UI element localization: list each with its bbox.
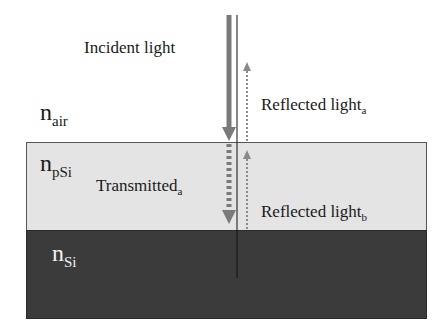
n-psi-label: npSi — [40, 150, 72, 181]
n-air-label: nair — [40, 99, 68, 130]
transmitted-light-arrow — [222, 144, 236, 224]
incident-light-arrow — [222, 15, 236, 141]
reflected-light-a-arrow — [243, 62, 251, 141]
reflected-light-b-arrow — [243, 150, 251, 229]
n-si-label: nSi — [52, 240, 77, 271]
reflected-light-b-label: Reflected lightb — [261, 202, 367, 223]
transmitted-light-a-label: Transmitteda — [96, 176, 182, 197]
incident-light-label: Incident light — [84, 38, 175, 58]
reflected-light-a-label: Reflected lighta — [261, 95, 366, 116]
